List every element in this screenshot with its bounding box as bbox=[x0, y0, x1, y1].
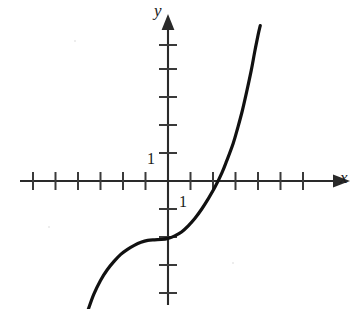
scan-speck bbox=[74, 40, 76, 42]
y-axis-arrowhead bbox=[162, 14, 175, 30]
x-axis-label: x bbox=[340, 169, 348, 186]
y-axis-unit-tick-label: 1 bbox=[147, 151, 155, 167]
coordinate-plot bbox=[0, 0, 359, 309]
y-axis-label: y bbox=[154, 2, 162, 19]
graph-figure: y x 1 1 bbox=[0, 0, 359, 309]
x-axis-unit-tick-label: 1 bbox=[179, 194, 187, 210]
scan-speck bbox=[48, 226, 50, 228]
scan-speck bbox=[232, 262, 234, 264]
